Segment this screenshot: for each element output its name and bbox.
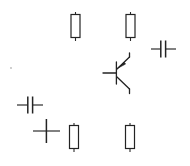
resistor-bottom-right[interactable] xyxy=(126,123,135,152)
transistor-collector-slant xyxy=(117,77,130,89)
circuit-schematic-canvas xyxy=(0,0,190,166)
resistor-top-right[interactable] xyxy=(126,12,135,41)
cross-junction-bottom-left[interactable] xyxy=(33,119,60,143)
resistor-body xyxy=(70,126,79,149)
resistor-body xyxy=(126,126,135,149)
resistor-body xyxy=(71,15,80,38)
stray-dot xyxy=(10,67,12,69)
capacitor-left[interactable] xyxy=(17,97,43,114)
resistor-body xyxy=(126,15,135,38)
schematic-svg xyxy=(0,0,190,166)
resistor-bottom-left[interactable] xyxy=(70,123,79,152)
pnp-transistor[interactable] xyxy=(103,53,130,94)
capacitor-right[interactable] xyxy=(151,41,176,58)
transistor-emitter-arrowhead xyxy=(117,62,125,68)
resistor-top-left[interactable] xyxy=(71,12,80,41)
